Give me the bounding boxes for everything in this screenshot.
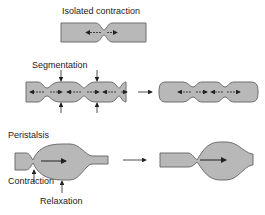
isolated-contraction-tube: [61, 23, 146, 42]
gi-motility-diagram: [0, 0, 265, 215]
segmentation-result-tube: [159, 82, 258, 102]
peristalsis-tube: [15, 144, 108, 193]
segmentation-tube: [26, 70, 127, 113]
peristalsis-result-tube: [160, 142, 253, 180]
